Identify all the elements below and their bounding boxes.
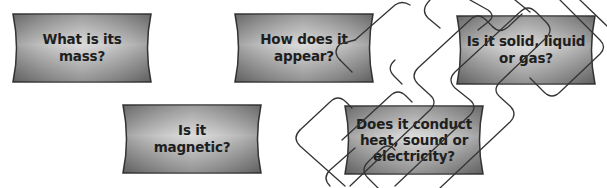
question-box-conduct: Does it conduct heat, sound or electrici… xyxy=(342,105,486,175)
question-text: Does it conduct heat, sound or electrici… xyxy=(350,105,478,175)
question-text: What is its mass? xyxy=(18,13,146,83)
question-text: How does it appear? xyxy=(240,13,368,83)
question-box-state: Is it solid, liquid or gas? xyxy=(454,15,598,85)
question-box-magnetic: Is it magnetic? xyxy=(120,104,264,174)
question-text: Is it solid, liquid or gas? xyxy=(462,15,590,85)
question-box-appearance: How does it appear? xyxy=(232,13,376,83)
question-box-mass: What is its mass? xyxy=(10,13,154,83)
question-text: Is it magnetic? xyxy=(128,104,256,174)
